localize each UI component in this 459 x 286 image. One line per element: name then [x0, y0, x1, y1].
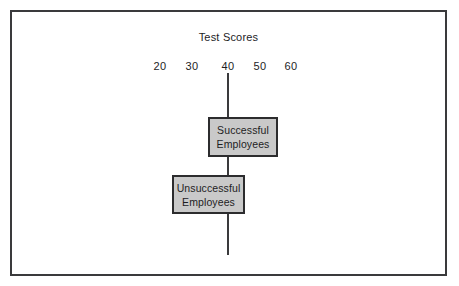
plot-area: Test Scores 20 30 40 50 60 Successful Em…: [0, 0, 459, 286]
group-box-unsuccessful-employees: Unsuccessful Employees: [172, 175, 245, 214]
group-box-unsuccessful-label-line2: Employees: [182, 195, 235, 209]
group-box-successful-label-line1: Successful: [217, 123, 269, 137]
group-box-unsuccessful-label-line1: Unsuccessful: [177, 181, 241, 195]
axis-tick-labels: 20 30 40 50 60: [0, 60, 459, 76]
tick-label-60: 60: [271, 60, 311, 72]
group-box-successful-label-line2: Employees: [217, 137, 270, 151]
chart-title: Test Scores: [0, 31, 458, 43]
group-box-successful-employees: Successful Employees: [208, 117, 278, 157]
vertical-reference-line: [227, 73, 229, 255]
figure-root: Test Scores 20 30 40 50 60 Successful Em…: [0, 0, 459, 286]
tick-label-30: 30: [172, 60, 212, 72]
